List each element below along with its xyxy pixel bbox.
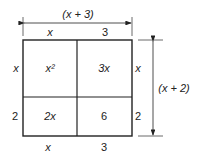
bottom-label-x: x	[44, 141, 51, 153]
right-dimension-label: (x + 2)	[158, 82, 190, 94]
right-label-2: 2	[135, 110, 141, 122]
top-dimension-label: (x + 3)	[62, 8, 94, 20]
cell-top-right: 3x	[98, 62, 110, 74]
area-grid	[23, 40, 132, 136]
top-label-x: x	[46, 26, 53, 38]
right-dimension: (x + 2)	[138, 40, 190, 136]
area-model-diagram: (x + 3) (x + 2) x 3 x 3 x 2 x 2 x² 3x 2x…	[0, 0, 197, 157]
cell-bottom-right: 6	[101, 110, 107, 122]
top-label-3: 3	[102, 26, 108, 38]
left-label-2: 2	[12, 110, 18, 122]
cell-bottom-left: 2x	[43, 110, 56, 122]
bottom-label-3: 3	[101, 141, 107, 153]
cell-top-left: x²	[44, 62, 55, 74]
top-dimension: (x + 3)	[23, 8, 132, 36]
left-label-x: x	[12, 62, 19, 74]
right-label-x: x	[134, 62, 141, 74]
